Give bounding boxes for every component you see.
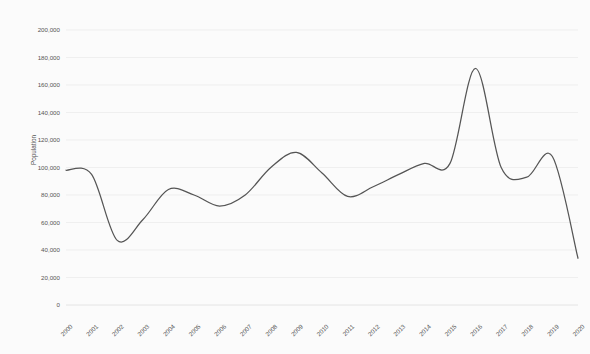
chart-canvas: 020,00040,00060,00080,000100,000120,0001… <box>0 0 590 354</box>
y-tick-label: 160,000 <box>38 81 61 88</box>
y-tick-label: 80,000 <box>41 191 60 198</box>
population-line-chart: 020,00040,00060,00080,000100,000120,0001… <box>0 0 590 354</box>
y-tick-label: 0 <box>57 301 61 308</box>
y-axis-title: Population <box>30 134 38 165</box>
y-tick-label: 180,000 <box>38 54 61 61</box>
y-tick-label: 100,000 <box>38 164 61 171</box>
y-tick-label: 200,000 <box>38 26 61 33</box>
y-tick-label: 140,000 <box>38 109 61 116</box>
chart-background <box>0 0 590 354</box>
y-tick-label: 120,000 <box>38 136 61 143</box>
y-tick-label: 60,000 <box>41 219 60 226</box>
y-tick-label: 40,000 <box>41 246 60 253</box>
y-tick-label: 20,000 <box>41 274 60 281</box>
